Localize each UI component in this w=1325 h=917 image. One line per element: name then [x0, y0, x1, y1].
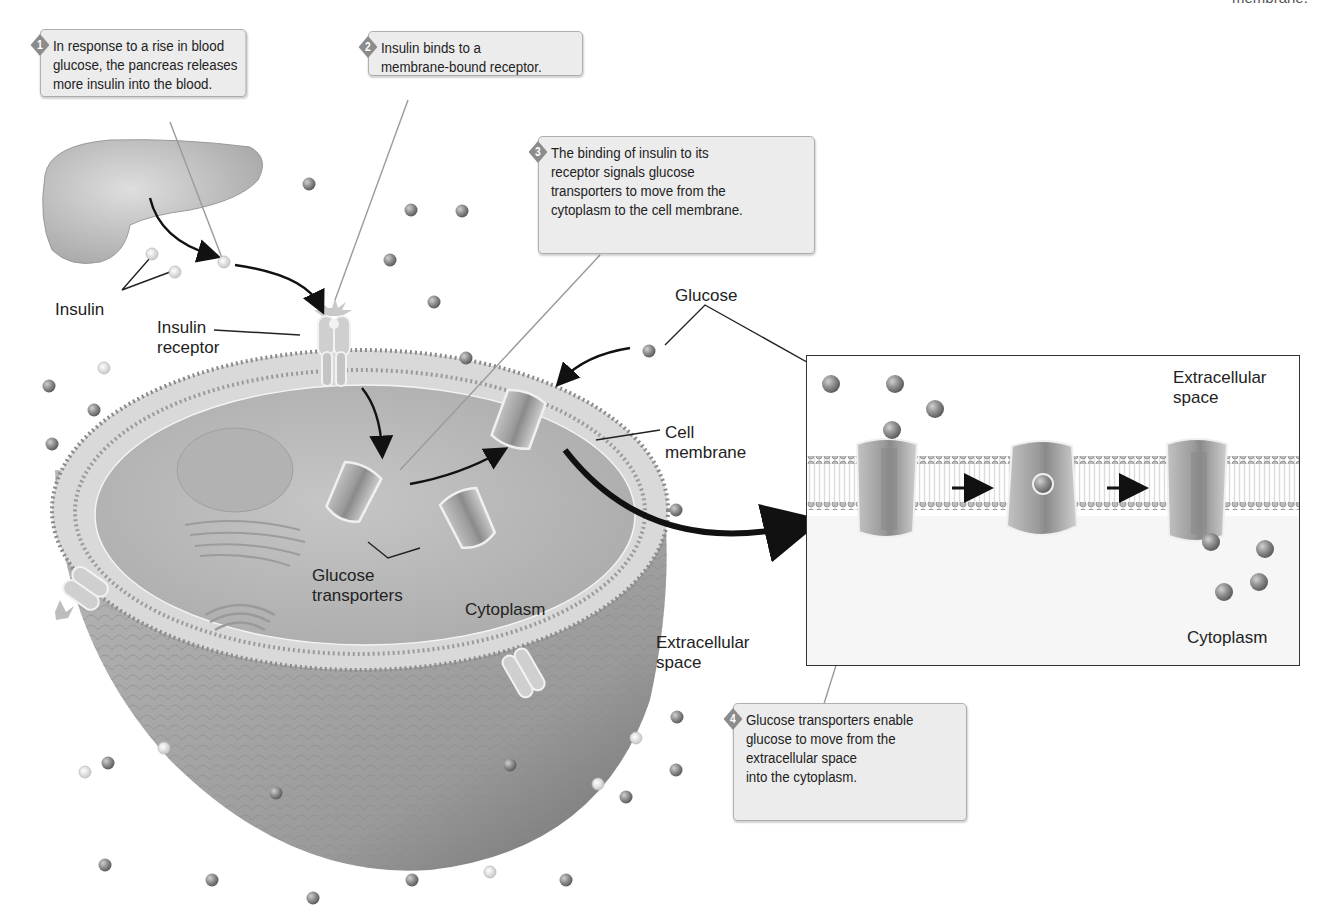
svg-text:4: 4: [730, 713, 736, 726]
inset-label-cytoplasm: Cytoplasm: [1187, 628, 1267, 648]
label-glucose-transporters: Glucose transporters: [312, 566, 403, 606]
label-line: transporters: [312, 586, 403, 606]
label-insulin-receptor: Insulin receptor: [157, 318, 219, 358]
callout-text: transporters to move from the: [551, 181, 806, 200]
callout-step-2: 2 Insulin binds to a membrane-bound rece…: [368, 31, 583, 76]
callout-text: In response to a rise in blood: [53, 36, 237, 55]
callout-text: glucose to move from the: [746, 729, 958, 748]
label-line: space: [1173, 388, 1267, 408]
pancreas: [43, 140, 263, 264]
step-1-badge-icon: 1: [31, 34, 50, 56]
label-insulin: Insulin: [55, 300, 104, 320]
callout-text: The binding of insulin to its: [551, 143, 806, 162]
step-2-badge-icon: 2: [359, 36, 378, 58]
callout-text: more insulin into the blood.: [53, 74, 237, 93]
insulin-glucose-uptake-diagram: Extracellular space Cytoplasm 1 In respo…: [0, 0, 1325, 917]
svg-text:3: 3: [535, 146, 541, 159]
nucleus: [177, 428, 293, 512]
label-cytoplasm: Cytoplasm: [465, 600, 545, 620]
callout-text: into the cytoplasm.: [746, 767, 958, 786]
transporter-open-inward: [1167, 439, 1227, 541]
svg-text:2: 2: [365, 41, 371, 54]
label-line: receptor: [157, 338, 219, 358]
cropped-title-fragment: membrane.: [1232, 0, 1308, 8]
label-line: Extracellular: [1173, 368, 1267, 388]
label-line: membrane: [665, 443, 746, 463]
callout-text: Glucose transporters enable: [746, 710, 958, 729]
callout-step-1: 1 In response to a rise in blood glucose…: [40, 29, 246, 97]
callout-text: glucose, the pancreas releases: [53, 55, 237, 74]
callout-step-3: 3 The binding of insulin to its receptor…: [538, 136, 815, 254]
label-line: Cell: [665, 423, 746, 443]
label-line: Extracellular: [656, 633, 750, 653]
transporter-glucose-bound: [1007, 441, 1077, 535]
label-line: Insulin: [157, 318, 219, 338]
inset-label-extracellular-space: Extracellular space: [1173, 368, 1267, 408]
callout-text: Insulin binds to a: [381, 38, 574, 57]
label-line: Glucose: [312, 566, 403, 586]
label-glucose: Glucose: [675, 286, 737, 306]
step-4-badge-icon: 4: [724, 708, 743, 730]
step-3-badge-icon: 3: [529, 141, 548, 163]
callout-text: extracellular space: [746, 748, 958, 767]
transporter-open-outward: [857, 439, 917, 537]
inset-transport-mechanism: Extracellular space Cytoplasm: [806, 355, 1300, 666]
label-line: space: [656, 653, 750, 673]
callout-text: receptor signals glucose: [551, 162, 806, 181]
cytoplasm-region: [95, 385, 635, 645]
svg-text:1: 1: [37, 39, 43, 52]
callout-text: membrane-bound receptor.: [381, 57, 574, 76]
callout-step-4: 4 Glucose transporters enable glucose to…: [733, 703, 967, 821]
label-extracellular-space: Extracellular space: [656, 633, 750, 673]
label-cell-membrane: Cell membrane: [665, 423, 746, 463]
callout-text: cytoplasm to the cell membrane.: [551, 200, 806, 219]
